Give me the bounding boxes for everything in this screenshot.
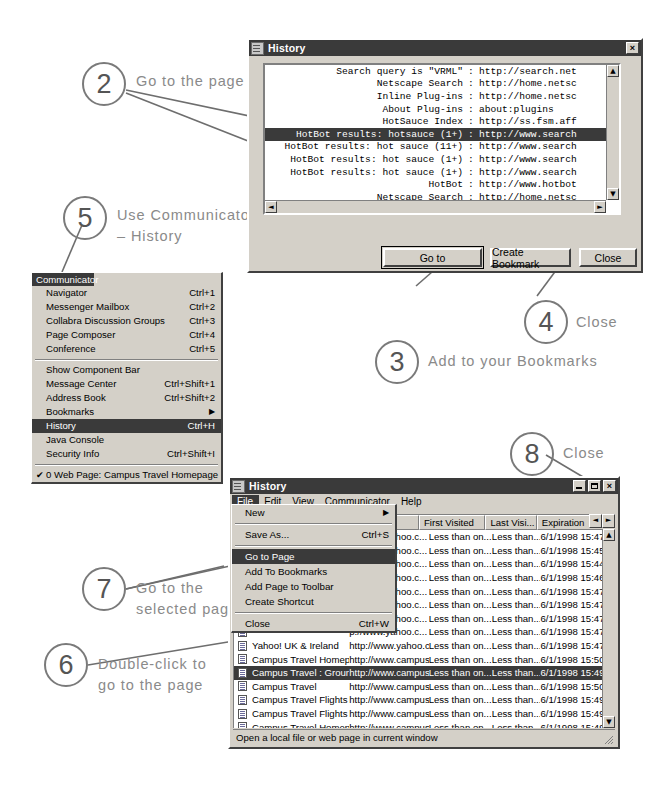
callout-2: 2	[82, 62, 126, 106]
scroll-down-arrow-icon[interactable]: ▼	[607, 188, 619, 200]
cell-first: Less than on...	[429, 572, 492, 583]
communicator-menu-item[interactable]: HistoryCtrl+H	[32, 419, 221, 433]
top-history-row[interactable]: Search query is "VRML":http://search.net	[265, 65, 619, 78]
header-scroll-arrows[interactable]: ◄ ►	[589, 514, 615, 529]
cell-title: Campus Travel Homepage	[252, 722, 349, 728]
scroll-left-arrow-icon[interactable]: ◄	[265, 201, 277, 213]
table-row[interactable]: Yahoo! UK & Irelandhttp://www.yahoo.c...…	[234, 639, 615, 653]
scroll-up-arrow-icon[interactable]: ▲	[607, 65, 619, 77]
top-history-row[interactable]: About Plug-ins:about:plugins	[265, 103, 619, 116]
file-menu-item[interactable]: Add To Bookmarks	[232, 564, 395, 579]
cell-title: Campus Travel : Ground T...	[252, 667, 349, 678]
bottom-scroll-down-arrow-icon[interactable]: ▼	[603, 716, 615, 728]
header-scroll-left-icon[interactable]: ◄	[589, 514, 602, 528]
communicator-menu-title[interactable]: Communicator	[32, 273, 94, 286]
communicator-menu-item[interactable]: NavigatorCtrl+1	[32, 286, 221, 300]
cell-first: Less than on...	[429, 640, 492, 651]
communicator-menu-item[interactable]: Security InfoCtrl+Shift+I	[32, 447, 221, 461]
top-history-row[interactable]: HotBot results: hotsauce (1+):http://www…	[265, 128, 619, 141]
communicator-menu-item[interactable]: Messenger MailboxCtrl+2	[32, 300, 221, 314]
callout-6: 6	[44, 643, 88, 687]
cell-first: Less than on...	[429, 613, 492, 624]
menu-item-label: Page Composer	[46, 328, 179, 342]
bottom-scroll-up-arrow-icon[interactable]: ▲	[603, 529, 615, 541]
cell-location: http://www.campust...	[349, 667, 428, 678]
communicator-menu-item[interactable]: ConferenceCtrl+5	[32, 342, 221, 356]
table-row[interactable]: Campus Travel Flightshttp://www.campust.…	[234, 707, 615, 721]
goto-button[interactable]: Go to	[383, 248, 482, 267]
maximize-button[interactable]	[588, 480, 601, 492]
file-menu-item[interactable]: CloseCtrl+W	[232, 616, 395, 631]
resize-grip-icon[interactable]	[602, 733, 614, 745]
cell-first: Less than on...	[429, 626, 492, 637]
file-menu-item[interactable]: New▶	[232, 505, 395, 520]
top-history-row[interactable]: HotBot results: hot sauce (1+):http://ww…	[265, 153, 619, 166]
scroll-right-arrow-icon[interactable]: ►	[594, 201, 606, 213]
create-bookmark-button[interactable]: Create Bookmark	[490, 248, 571, 267]
table-row[interactable]: Campus Travelhttp://www.campust...Less t…	[234, 680, 615, 694]
top-history-row[interactable]: Inline Plug-ins:http://home.netsc	[265, 90, 619, 103]
table-row[interactable]: Campus Travel Homepagehttp://www.campust…	[234, 720, 615, 728]
file-menu-item[interactable]: Go to Page	[232, 549, 395, 564]
callout-3: 3	[375, 340, 419, 384]
menu-item-label: 0 Web Page: Campus Travel Homepage	[46, 468, 218, 482]
cell-first: Less than on...	[429, 708, 492, 719]
top-history-listbox[interactable]: Search query is "VRML":http://search.net…	[263, 63, 621, 215]
communicator-menu-item[interactable]: Bookmarks▶	[32, 405, 221, 419]
status-bar: Open a local file or web page in current…	[233, 729, 615, 745]
callout-6-label: Double-click to go to the page	[98, 654, 207, 696]
top-window-titlebar[interactable]: History ×	[249, 40, 641, 56]
top-history-row[interactable]: HotBot:http://www.hotbot	[265, 178, 619, 191]
header-scroll-right-icon[interactable]: ►	[602, 514, 615, 528]
cell-last: Less than...	[492, 667, 541, 678]
cell-last: Less than...	[492, 694, 541, 705]
menubar-item-help[interactable]: Help	[396, 495, 428, 508]
file-menu-item[interactable]: Add Page to Toolbar	[232, 579, 395, 594]
communicator-menu-item[interactable]: Java Console	[32, 433, 221, 447]
file-menu[interactable]: New▶Save As...Ctrl+SGo to PageAdd To Boo…	[231, 504, 397, 633]
communicator-menu-item[interactable]: Page ComposerCtrl+4	[32, 328, 221, 342]
menu-item-label: New	[245, 505, 383, 520]
top-window-close-button[interactable]: ×	[626, 42, 639, 54]
callout-5-label: Use Communicator – History	[117, 205, 256, 247]
communicator-menu-item[interactable]: Address BookCtrl+Shift+2	[32, 391, 221, 405]
top-vertical-scrollbar[interactable]: ▲ ▼	[606, 65, 619, 200]
document-icon	[238, 668, 247, 678]
top-window-title: History	[268, 42, 306, 54]
top-history-row[interactable]: HotSauce Index:http://ss.fsm.aff	[265, 115, 619, 128]
table-row[interactable]: Campus Travel Homepagehttp://www.campust…	[234, 652, 615, 666]
document-icon	[238, 722, 247, 728]
minimize-button[interactable]	[573, 480, 586, 492]
column-header-first[interactable]: First Visited	[419, 515, 485, 530]
communicator-menu[interactable]: Communicator NavigatorCtrl+1Messenger Ma…	[31, 272, 223, 484]
top-history-row[interactable]: HotBot results: hot sauce (1+):http://ww…	[265, 166, 619, 179]
bottom-vertical-scrollbar[interactable]: ▲ ▼	[602, 529, 615, 728]
cell-title: Campus Travel	[252, 681, 349, 692]
row-url: http://www.search	[479, 167, 619, 178]
history-window-icon	[251, 42, 264, 55]
status-text: Open a local file or web page in current…	[236, 732, 438, 743]
bottom-window-titlebar[interactable]: History ×	[230, 478, 618, 494]
top-history-row[interactable]: Netscape Search:http://home.netsc	[265, 78, 619, 91]
row-separator: :	[463, 116, 479, 127]
communicator-menu-item[interactable]: Show Component Bar	[32, 363, 221, 377]
close-button-top[interactable]: Close	[579, 248, 637, 267]
cell-location: http://www.campust...	[349, 708, 428, 719]
menu-item-shortcut: Ctrl+S	[352, 527, 390, 542]
menu-item-shortcut: Ctrl+2	[179, 300, 215, 314]
top-history-row[interactable]: HotBot results: hot sauce (11+):http://w…	[265, 141, 619, 154]
close-button-bottom[interactable]: ×	[603, 480, 616, 492]
communicator-menu-item[interactable]: Message CenterCtrl+Shift+1	[32, 377, 221, 391]
communicator-menu-item[interactable]: ✔0 Web Page: Campus Travel Homepage	[32, 468, 221, 482]
table-row[interactable]: Campus Travel Flightshttp://www.campust.…	[234, 693, 615, 707]
callout-5: 5	[63, 196, 107, 240]
file-menu-item[interactable]: Create Shortcut	[232, 594, 395, 609]
file-menu-item[interactable]: Save As...Ctrl+S	[232, 527, 395, 542]
menu-item-label: Java Console	[46, 433, 215, 447]
communicator-menu-item[interactable]: Collabra Discussion GroupsCtrl+3	[32, 314, 221, 328]
callout-7-label: Go to the selected page	[136, 578, 238, 620]
table-row[interactable]: Campus Travel : Ground T...http://www.ca…	[234, 666, 615, 680]
column-header-last[interactable]: Last Visi...	[485, 515, 536, 530]
menu-item-shortcut: Ctrl+4	[179, 328, 215, 342]
top-horizontal-scrollbar[interactable]: ◄ ►	[265, 200, 606, 213]
